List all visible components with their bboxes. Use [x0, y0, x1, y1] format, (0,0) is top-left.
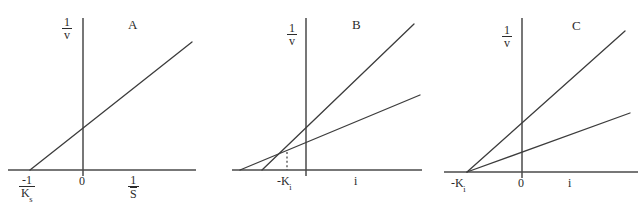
panel-b-x-intercept-label: -Ki — [277, 175, 292, 190]
panel-c-graphics — [444, 18, 638, 178]
panel-c-y-axis-numerator: 1 — [502, 24, 512, 36]
panel-c-line-steep — [467, 31, 625, 172]
panel-a-x-intercept-numerator: -1 — [19, 174, 35, 186]
panel-c-x-intercept-k: -K — [451, 176, 464, 190]
panel-b-x-intercept-k: -K — [277, 174, 290, 188]
panel-b-line-steep — [262, 24, 414, 170]
panel-c-line-shallow — [467, 113, 630, 172]
panel-b-letter: B — [352, 18, 361, 31]
panel-c-x-intercept-subscript: i — [463, 184, 465, 194]
panel-a-x-axis-denominator-bar: S — [130, 187, 137, 201]
plots-canvas — [0, 0, 644, 212]
panel-c-x-axis-label: i — [568, 177, 571, 189]
panel-b-x-axis-label: i — [354, 175, 357, 187]
panel-a-x-axis-numerator: 1 — [128, 174, 139, 186]
panel-b-y-axis-numerator: 1 — [287, 22, 297, 34]
panel-a-x-axis-label: 1 S — [128, 174, 139, 201]
panel-a-y-axis-label: 1 v — [62, 16, 72, 41]
panel-b-y-axis-denominator: v — [287, 34, 297, 47]
panel-a-y-axis-numerator: 1 — [62, 16, 72, 28]
panel-b-x-intercept-subscript: i — [289, 182, 291, 192]
panel-a-x-intercept-subscript: s — [29, 194, 32, 204]
panel-c-y-axis-denominator: v — [502, 36, 512, 49]
panel-c-letter: C — [572, 19, 581, 32]
panel-c-origin-label: 0 — [518, 177, 524, 189]
panel-a-y-axis-denominator: v — [62, 28, 72, 41]
panel-a-origin-label: 0 — [79, 175, 85, 187]
panel-a-letter: A — [128, 18, 137, 31]
panel-a-x-intercept-label: -1 Ks — [19, 174, 35, 202]
panel-b-line-shallow — [240, 95, 420, 170]
panel-a-graphics — [8, 18, 196, 176]
panel-a-x-intercept-denominator: Ks — [19, 186, 35, 202]
panel-c-x-intercept-label: -Ki — [451, 177, 466, 192]
panel-b-graphics — [232, 18, 422, 176]
figure-root: A 1 v 0 1 S -1 Ks B 1 v -Ki i C 1 v -Ki … — [0, 0, 644, 212]
panel-a-x-axis-denominator: S — [128, 186, 139, 201]
panel-a-line-1 — [30, 42, 192, 170]
panel-b-y-axis-label: 1 v — [287, 22, 297, 47]
panel-c-y-axis-label: 1 v — [502, 24, 512, 49]
